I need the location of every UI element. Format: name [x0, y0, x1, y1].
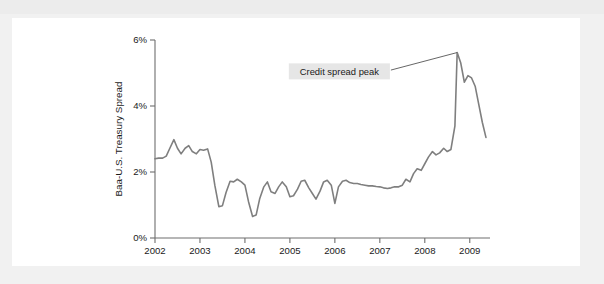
screenshot-root: 0%2%4%6% 2002200320042005200620072008200… [0, 0, 604, 284]
y-tick-label: 6% [133, 34, 147, 45]
x-tick-label: 2006 [324, 245, 345, 256]
y-tick-group [150, 40, 155, 238]
x-tick-label-group: 20022003200420052006200720082009 [144, 245, 480, 256]
line-chart: 0%2%4%6% 2002200320042005200620072008200… [12, 18, 580, 266]
x-tick-label: 2003 [189, 245, 210, 256]
x-tick-label: 2005 [279, 245, 300, 256]
x-tick-label: 2002 [144, 245, 165, 256]
x-tick-label: 2008 [414, 245, 435, 256]
annotation-group: Credit spread peak [289, 53, 457, 80]
y-tick-label: 4% [133, 100, 147, 111]
y-tick-label-group: 0%2%4%6% [133, 34, 147, 243]
y-axis-title: Baa-U.S. Treasury Spread [113, 82, 124, 197]
y-axis: 0%2%4%6% [133, 34, 155, 243]
y-tick-label: 0% [133, 232, 147, 243]
x-tick-label: 2007 [369, 245, 390, 256]
x-axis: 20022003200420052006200720082009 [144, 238, 490, 256]
x-tick-label: 2009 [459, 245, 480, 256]
annotation-leader-line [391, 53, 457, 71]
annotation-label: Credit spread peak [300, 66, 380, 77]
x-tick-label: 2004 [234, 245, 256, 256]
x-tick-group [155, 238, 470, 243]
top-decorative-band [0, 0, 604, 14]
y-tick-label: 2% [133, 166, 147, 177]
figure-card: 0%2%4%6% 2002200320042005200620072008200… [12, 18, 580, 266]
